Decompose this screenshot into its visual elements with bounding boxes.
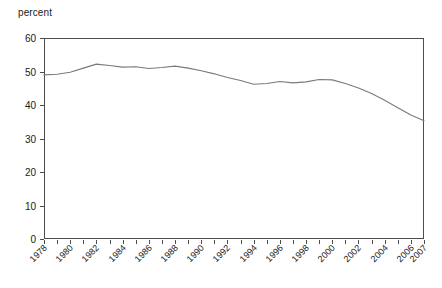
x-tick-label: 1992 bbox=[211, 243, 232, 264]
x-tick-label: 1984 bbox=[107, 243, 128, 264]
plot-frame bbox=[45, 39, 424, 239]
x-tick-label: 1998 bbox=[290, 243, 311, 264]
x-tick-label: 1980 bbox=[54, 243, 75, 264]
y-tick-label: 30 bbox=[25, 134, 37, 145]
x-tick-label: 1996 bbox=[264, 243, 285, 264]
x-tick-label: 1982 bbox=[80, 243, 101, 264]
y-tick-label: 60 bbox=[25, 33, 37, 44]
x-tick-label: 1978 bbox=[28, 243, 49, 264]
x-tick-label: 1988 bbox=[159, 243, 180, 264]
y-tick-label: 20 bbox=[25, 167, 37, 178]
y-tick-label: 50 bbox=[25, 67, 37, 78]
y-tick-label: 0 bbox=[30, 234, 36, 245]
x-tick-label: 1986 bbox=[133, 243, 154, 264]
series-line bbox=[44, 64, 424, 121]
x-tick-label: 2004 bbox=[369, 243, 390, 264]
x-tick-label: 2002 bbox=[342, 243, 363, 264]
y-tick-label: 40 bbox=[25, 100, 37, 111]
x-tick-label: 1990 bbox=[185, 243, 206, 264]
chart-container: percent 0102030405060 197819801982198419… bbox=[0, 0, 442, 288]
y-tick-label: 10 bbox=[25, 201, 37, 212]
data-series-group bbox=[44, 64, 424, 121]
x-tick-label: 1994 bbox=[238, 243, 259, 264]
line-chart-plot: 0102030405060 19781980198219841986198819… bbox=[0, 0, 442, 288]
x-axis: 1978198019821984198619881990199219941996… bbox=[28, 240, 429, 265]
x-tick-label: 2000 bbox=[316, 243, 337, 264]
y-axis: 0102030405060 bbox=[25, 33, 44, 245]
